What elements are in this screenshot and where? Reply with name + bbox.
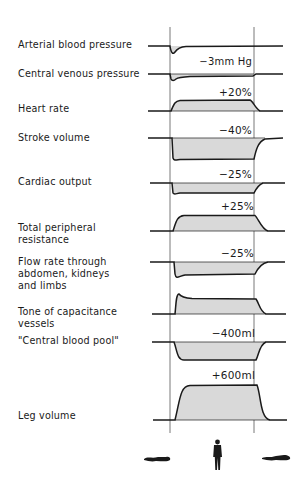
label-central-venous-pressure: Central venous pressure (18, 68, 140, 80)
value-stroke-volume: −40% (172, 124, 252, 136)
value-cardiac-output: −25% (172, 168, 252, 180)
standing-figure-icon (213, 440, 222, 470)
trace-heart-rate (148, 100, 283, 111)
supine-figure-right-icon (262, 455, 290, 460)
trace-leg-volume (153, 385, 287, 420)
trace-central-blood-pool (152, 342, 286, 360)
label-cardiac-output: Cardiac output (18, 176, 92, 188)
value-heart-rate: +20% (172, 86, 252, 98)
label-flow-rate: Flow rate through abdomen, kidneys and l… (18, 256, 110, 292)
label-central-blood-pool: "Central blood pool" (18, 335, 119, 347)
value-central-venous-pressure: −3mm Hg (172, 56, 252, 67)
label-total-peripheral-resistance: Total peripheral resistance (18, 222, 96, 246)
label-arterial-pressure: Arterial blood pressure (18, 39, 132, 51)
value-leg-volume: +600ml (175, 369, 255, 381)
supine-figure-left-icon (144, 457, 170, 462)
label-capacitance-tone: Tone of capacitance vessels (18, 306, 117, 330)
value-total-peripheral-resistance: +25% (174, 200, 254, 212)
trace-stroke-volume (148, 138, 283, 160)
value-flow-rate: −25% (174, 247, 254, 259)
label-leg-volume: Leg volume (18, 410, 76, 422)
label-stroke-volume: Stroke volume (18, 132, 90, 144)
value-central-blood-pool: −400ml (175, 327, 255, 339)
trace-capacitance-tone (152, 294, 286, 314)
trace-central-venous-pressure (148, 74, 283, 81)
trace-arterial-pressure (148, 46, 283, 53)
label-heart-rate: Heart rate (18, 103, 69, 115)
